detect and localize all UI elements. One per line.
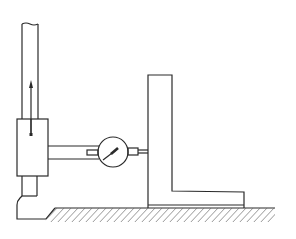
probe-stylus xyxy=(128,148,148,155)
dial-indicator xyxy=(98,137,128,167)
column-break-line xyxy=(22,23,38,25)
arm-clamp xyxy=(87,150,98,155)
try-square xyxy=(148,75,244,208)
height-gauge-lower-shaft xyxy=(22,176,37,196)
dial-needle-hub xyxy=(111,148,118,154)
height-gauge-base xyxy=(17,196,55,219)
slider-block xyxy=(17,119,48,176)
height-gauge-column xyxy=(22,23,38,119)
surface-plate xyxy=(42,207,282,224)
surface-plate-hatching xyxy=(42,207,282,224)
slider-lock-dot xyxy=(30,133,33,136)
diagram-canvas: Checking a square with a height gauge an… xyxy=(0,0,296,239)
indicator-arm xyxy=(48,146,99,159)
